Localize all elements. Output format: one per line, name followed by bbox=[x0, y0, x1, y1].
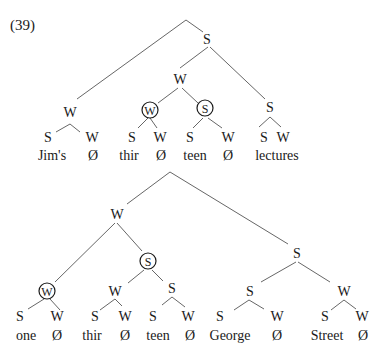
tree2-top-w-node: W bbox=[110, 207, 124, 222]
null-symbol: Ø bbox=[52, 328, 62, 343]
edge bbox=[182, 88, 198, 103]
leaf-node: W bbox=[270, 309, 284, 324]
example-number: (39) bbox=[10, 17, 35, 34]
edge bbox=[249, 300, 264, 309]
tree2-teen-s-node: S bbox=[168, 281, 176, 296]
word: one bbox=[16, 328, 36, 343]
word: thir bbox=[119, 148, 139, 163]
edge bbox=[77, 20, 186, 99]
tree-2: W S W W S S S W S W S W S W S W S W one … bbox=[16, 172, 370, 343]
tree-1: S W W W S S S W S W S W S W Jim's Ø thir… bbox=[38, 20, 299, 163]
edge bbox=[152, 270, 163, 281]
leaf-node: W bbox=[276, 130, 290, 145]
edge bbox=[127, 172, 170, 204]
null-symbol: Ø bbox=[120, 328, 130, 343]
tree1-root-node: S bbox=[203, 32, 211, 47]
leaf-node: S bbox=[186, 130, 194, 145]
leaf-node: W bbox=[118, 309, 132, 324]
edge bbox=[234, 300, 249, 310]
leaf-node: S bbox=[149, 309, 157, 324]
edge bbox=[28, 299, 44, 309]
edge bbox=[172, 297, 185, 307]
null-symbol: Ø bbox=[272, 328, 282, 343]
edge bbox=[56, 124, 70, 132]
null-symbol: Ø bbox=[358, 328, 368, 343]
leaf-node: W bbox=[221, 130, 235, 145]
edge bbox=[128, 270, 144, 283]
metrical-tree-diagram: (39) S W W W S S S W S W S W S W bbox=[0, 0, 380, 350]
tree1-lectures-s-node: S bbox=[266, 100, 274, 115]
edge bbox=[259, 117, 270, 127]
edge bbox=[117, 223, 142, 251]
tree2-thirteen-s-node-circled: S bbox=[145, 255, 152, 269]
edge bbox=[100, 299, 115, 310]
leaf-node: S bbox=[16, 309, 24, 324]
tree2-thir-w-node: W bbox=[108, 284, 122, 299]
null-symbol: Ø bbox=[223, 148, 233, 163]
edge bbox=[261, 262, 296, 282]
edge bbox=[70, 124, 80, 132]
tree1-teen-s-node-circled: S bbox=[202, 102, 209, 116]
edge bbox=[138, 118, 148, 128]
edge bbox=[298, 262, 330, 282]
word: lectures bbox=[255, 148, 299, 163]
edge bbox=[193, 118, 203, 128]
tree2-right-s-node: S bbox=[293, 246, 301, 261]
tree2-george-s-node: S bbox=[246, 284, 254, 299]
edge bbox=[170, 172, 288, 244]
word: thir bbox=[82, 328, 102, 343]
edge bbox=[208, 118, 222, 128]
leaf-node: W bbox=[181, 309, 195, 324]
edge bbox=[210, 47, 265, 99]
edge bbox=[158, 88, 178, 103]
word: Jim's bbox=[38, 148, 66, 163]
null-symbol: Ø bbox=[156, 148, 166, 163]
leaf-node: S bbox=[216, 309, 224, 324]
leaf-node: W bbox=[153, 130, 167, 145]
leaf-node: S bbox=[91, 309, 99, 324]
edge bbox=[162, 297, 172, 305]
edge bbox=[115, 299, 122, 306]
edge bbox=[150, 118, 157, 128]
leaf-node: W bbox=[85, 130, 99, 145]
null-symbol: Ø bbox=[88, 148, 98, 163]
edge bbox=[55, 223, 115, 282]
edge bbox=[186, 20, 203, 32]
leaf-node: W bbox=[50, 309, 64, 324]
word: Street bbox=[311, 328, 344, 343]
leaf-node: S bbox=[128, 130, 136, 145]
word: teen bbox=[183, 148, 206, 163]
null-symbol: Ø bbox=[185, 328, 195, 343]
tree1-thir-w-node-circled: W bbox=[144, 104, 156, 118]
leaf-node: W bbox=[355, 309, 369, 324]
leaf-node: S bbox=[260, 130, 268, 145]
leaf-node: S bbox=[44, 130, 52, 145]
edge bbox=[180, 47, 208, 68]
tree2-street-w-node: W bbox=[337, 284, 351, 299]
word: teen bbox=[146, 328, 169, 343]
tree2-one-w-node-circled: W bbox=[41, 285, 53, 299]
edge bbox=[344, 300, 356, 309]
tree1-jims-w-node: W bbox=[63, 105, 77, 120]
word: George bbox=[210, 328, 251, 343]
edge bbox=[331, 300, 344, 310]
tree1-mid-w-node: W bbox=[173, 72, 187, 87]
leaf-node: S bbox=[321, 309, 329, 324]
edge bbox=[270, 117, 281, 127]
